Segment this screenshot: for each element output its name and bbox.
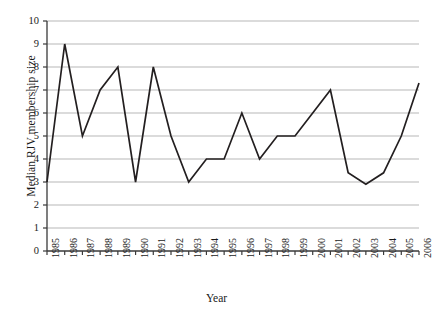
y-tick-label: 10 bbox=[17, 16, 39, 27]
x-tick-label: 1995 bbox=[228, 238, 238, 258]
y-tick-label: 8 bbox=[17, 62, 39, 73]
x-tick-label: 1988 bbox=[104, 238, 114, 258]
x-tick-label: 1998 bbox=[281, 238, 291, 258]
y-tick-label: 9 bbox=[17, 39, 39, 50]
x-tick-label: 1997 bbox=[264, 238, 274, 258]
x-tick-label: 2001 bbox=[334, 238, 344, 258]
x-tick-label: 2004 bbox=[388, 238, 398, 258]
y-tick-label: 2 bbox=[17, 200, 39, 211]
x-tick-label: 2006 bbox=[423, 238, 433, 258]
x-tick-label: 1994 bbox=[210, 238, 220, 258]
x-tick-label: 2005 bbox=[405, 238, 415, 258]
x-tick-label: 1996 bbox=[246, 238, 256, 258]
data-series-line bbox=[47, 44, 419, 184]
y-tick-label: 0 bbox=[17, 246, 39, 257]
y-tick-label: 6 bbox=[17, 108, 39, 119]
x-tick-label: 2002 bbox=[352, 238, 362, 258]
x-tick-label: 1985 bbox=[51, 238, 61, 258]
y-tick-label: 3 bbox=[17, 177, 39, 188]
x-tick-label: 1992 bbox=[175, 238, 185, 258]
y-tick-label: 5 bbox=[17, 131, 39, 142]
y-tick-label: 1 bbox=[17, 223, 39, 234]
figure-container: Median RJV membership size Year 01234567… bbox=[0, 0, 433, 316]
x-tick-label: 2003 bbox=[370, 238, 380, 258]
line-chart-plot bbox=[0, 0, 433, 316]
y-tick-label: 4 bbox=[17, 154, 39, 165]
x-tick-label: 1993 bbox=[193, 238, 203, 258]
x-tick-label: 2000 bbox=[317, 238, 327, 258]
x-tick-label: 1989 bbox=[122, 238, 132, 258]
gridlines-group bbox=[47, 21, 419, 228]
x-tick-label: 1990 bbox=[140, 238, 150, 258]
y-tick-label: 7 bbox=[17, 85, 39, 96]
x-tick-label: 1999 bbox=[299, 238, 309, 258]
x-tick-label: 1987 bbox=[86, 238, 96, 258]
x-tick-label: 1986 bbox=[69, 238, 79, 258]
x-tick-label: 1991 bbox=[157, 238, 167, 258]
